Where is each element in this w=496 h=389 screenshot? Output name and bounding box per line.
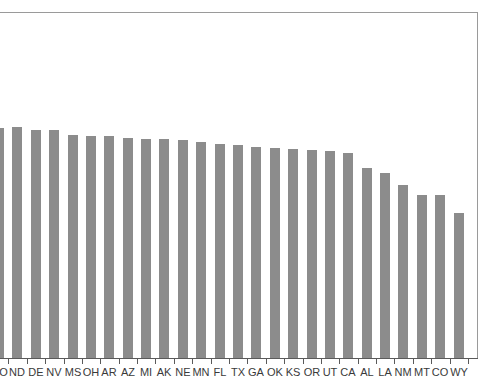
bar-ne — [178, 140, 188, 358]
bar-ok — [270, 148, 280, 358]
plot-area — [0, 12, 478, 358]
x-axis-tick — [339, 358, 340, 364]
x-axis-tick — [266, 358, 267, 364]
x-axis-tick — [174, 358, 175, 364]
x-axis-tick — [27, 358, 28, 364]
x-axis-tick — [376, 358, 377, 364]
x-axis-tick — [100, 358, 101, 364]
bar-ak — [159, 139, 169, 358]
bar-ms — [68, 135, 78, 358]
x-axis-tick — [45, 358, 46, 364]
bar-mt — [417, 195, 427, 358]
x-axis-tick — [229, 358, 230, 364]
bar-ut — [325, 151, 335, 358]
x-axis-tick — [192, 358, 193, 364]
bar-nd — [12, 127, 22, 358]
x-axis-tick — [8, 358, 9, 364]
bar-mo — [0, 128, 4, 358]
bar-ks — [288, 149, 298, 358]
x-axis-tick — [303, 358, 304, 364]
x-axis-tick — [155, 358, 156, 364]
bar-ar — [104, 136, 114, 358]
bar-de — [31, 130, 41, 358]
bar-ga — [251, 147, 261, 358]
bar-nv — [49, 130, 59, 358]
bar-wy — [454, 213, 464, 358]
bar-al — [362, 168, 372, 358]
x-axis-tick-label-wy: WY — [445, 366, 473, 379]
x-axis-tick — [82, 358, 83, 364]
x-axis-tick — [450, 358, 451, 364]
x-axis-tick — [394, 358, 395, 364]
bar-co — [435, 195, 445, 358]
bar-ca — [343, 153, 353, 359]
x-axis-tick — [137, 358, 138, 364]
x-axis-tick — [64, 358, 65, 364]
x-axis-tick — [284, 358, 285, 364]
bar-or — [307, 150, 317, 358]
bar-la — [380, 173, 390, 358]
bar-chart: MONDDENVMSOHARAZMIAKNEMNFLTXGAOKKSORUTCA… — [0, 0, 496, 389]
x-axis-tick — [321, 358, 322, 364]
bar-fl — [215, 144, 225, 359]
x-axis-tick — [211, 358, 212, 364]
bar-oh — [86, 136, 96, 358]
x-axis-line — [0, 358, 478, 359]
bar-nm — [398, 185, 408, 358]
bar-tx — [233, 145, 243, 358]
x-axis-tick — [358, 358, 359, 364]
bar-az — [123, 138, 133, 358]
x-axis-tick — [468, 358, 469, 364]
x-axis-tick — [413, 358, 414, 364]
x-axis-tick — [431, 358, 432, 364]
bar-mn — [196, 142, 206, 358]
x-axis-tick — [119, 358, 120, 364]
bar-mi — [141, 139, 151, 358]
x-axis-tick — [247, 358, 248, 364]
